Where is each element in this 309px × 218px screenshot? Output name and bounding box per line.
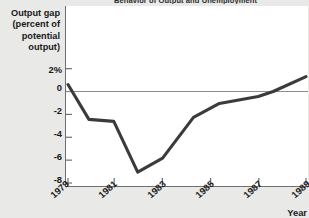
output-gap-series-line [68,77,306,172]
y-tick-label-m2: -2 [36,105,62,116]
plot-area [65,6,308,187]
y-axis-caption-line-2: (percent of [0,19,60,30]
y-tick-label-m6: -6 [36,151,62,162]
y-tick-label-m4: -4 [36,128,62,139]
output-gap-chart-figure: Behavior of Output and Unemployment Outp… [0,0,309,218]
x-axis-caption: Year [287,207,307,218]
y-tick-label-0: 0 [36,82,62,93]
chart-title-clipped: Behavior of Output and Unemployment [62,0,309,4]
y-axis-caption-line-4: output) [0,42,60,53]
y-axis-caption: Output gap (percent of potential output) [0,8,60,53]
chart-title-text: Behavior of Output and Unemployment [62,0,309,4]
y-axis-caption-line-3: potential [0,31,60,42]
y-tick-label-2: 2% [36,64,62,75]
plot-svg [66,6,308,186]
y-axis-caption-line-1: Output gap [0,8,60,19]
